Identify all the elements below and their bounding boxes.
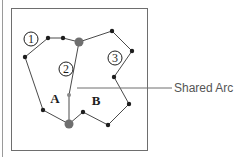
topology-diagram: 123 AB [0, 0, 242, 157]
vertex-dot [130, 49, 134, 53]
diagram-frame [12, 9, 148, 151]
vertex-dot [23, 55, 27, 59]
shared-arc-label: Shared Arc [174, 81, 233, 95]
arc-label-number: 1 [28, 32, 34, 46]
arc-label-number: 2 [63, 62, 69, 76]
vertex-dot [110, 29, 114, 33]
arc-label-number: 3 [112, 51, 118, 65]
polygon-label-A: A [50, 91, 60, 106]
vertex-dot [127, 102, 131, 106]
vertex-dot [106, 123, 110, 127]
vertex-dot [61, 36, 65, 40]
arc-label-2: 2 [59, 62, 73, 76]
vertex-dot [46, 36, 50, 40]
vertex-dot [81, 110, 85, 114]
arc-label-3: 3 [108, 51, 122, 65]
polygon-label-B: B [92, 93, 101, 108]
vertex-dot [41, 108, 45, 112]
node-point [65, 120, 74, 129]
node-point [75, 38, 84, 47]
vertex-dot [112, 75, 116, 79]
arc-label-1: 1 [24, 32, 38, 46]
shared-arc-vertex [67, 93, 71, 97]
